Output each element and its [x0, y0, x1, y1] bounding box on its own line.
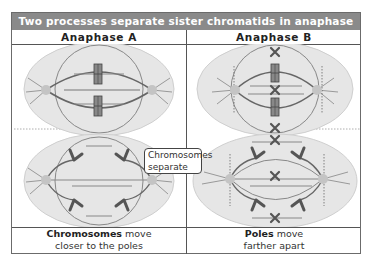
caption-anaphase-b: Poles move farther apart — [187, 228, 361, 254]
centrosome-icon — [41, 175, 51, 185]
centrosome-icon — [41, 85, 51, 95]
caption-a-rest: move — [122, 228, 152, 239]
caption-a-line2: closer to the poles — [12, 240, 186, 252]
diagram-frame: Two processes separate sister chromatids… — [11, 12, 361, 254]
heading-anaphase-a: Anaphase A — [12, 30, 186, 44]
caption-b-line2: farther apart — [187, 240, 361, 252]
caption-b-rest: move — [274, 228, 304, 239]
centrosome-icon — [147, 175, 157, 185]
callout-line1: Chromosomes — [148, 150, 198, 162]
caption-anaphase-a: Chromosomes move closer to the poles — [12, 228, 186, 254]
diagram-title: Two processes separate sister chromatids… — [12, 13, 360, 30]
spindle-cell-icon — [24, 44, 174, 136]
centrosome-icon — [147, 85, 157, 95]
centrosome-icon — [230, 85, 240, 95]
cell-illustrations — [12, 44, 362, 227]
callout-line2: separate — [148, 162, 198, 174]
caption-a-bold: Chromosomes — [46, 228, 122, 239]
centrosome-icon — [225, 174, 235, 184]
spindle-cell-icon — [193, 134, 357, 227]
centrosome-icon — [312, 85, 322, 95]
centrosome-icon — [318, 174, 328, 184]
caption-b-bold: Poles — [245, 228, 274, 239]
heading-anaphase-b: Anaphase B — [187, 30, 361, 44]
spindle-cell-icon — [197, 44, 353, 136]
callout-chromosomes-separate: Chromosomes separate — [144, 148, 202, 174]
